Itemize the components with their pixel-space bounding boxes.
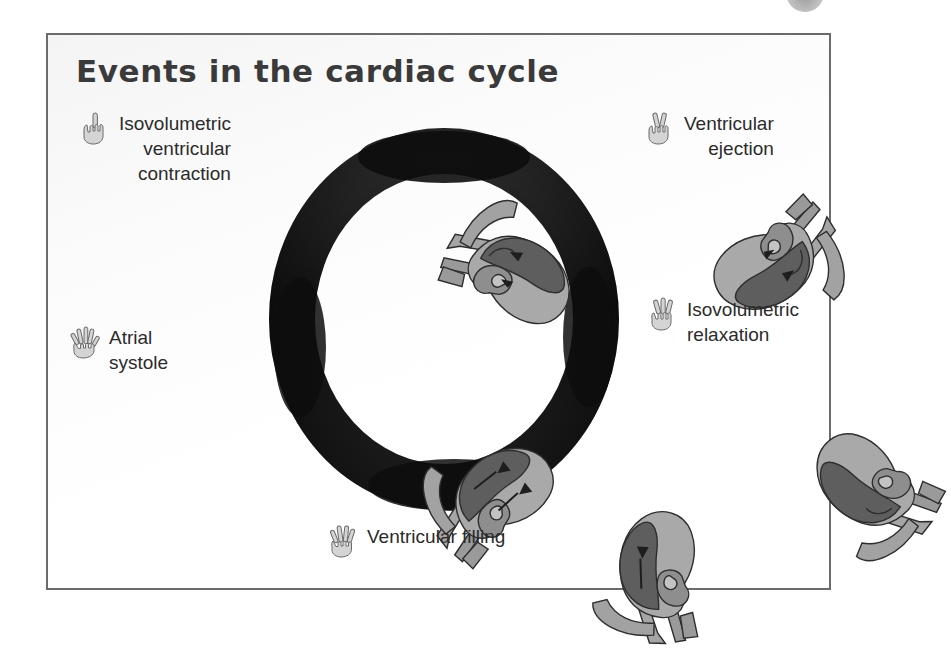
stage-label-isovolumetric-relaxation: Isovolumetric relaxation: [648, 297, 799, 347]
stage-label-ventricular-ejection: Ventricular ejection: [645, 111, 774, 161]
stage-label-isovolumetric-ventricular-contraction: Isovolumetric ventricular contraction: [80, 111, 231, 186]
stage-label-text: Isovolumetric ventricular contraction: [119, 111, 231, 186]
cardiac-cycle-figure-panel: Events in the cardiac cycle: [46, 33, 831, 590]
top-corner-badge: [786, 0, 824, 12]
hand-four-fingers-icon: [328, 524, 358, 558]
stage-label-ventricular-filling: Ventricular filling: [328, 524, 505, 558]
stage-label-text: Isovolumetric relaxation: [687, 297, 799, 347]
hand-two-fingers-icon: [645, 111, 675, 145]
stage-label-text: Atrial systole: [109, 325, 168, 375]
heart-diagram-ventricular-filling: [573, 492, 728, 647]
stage-label-atrial-systole: Atrial systole: [70, 325, 168, 375]
hand-one-finger-icon: [80, 111, 110, 145]
hand-five-fingers-icon: [70, 325, 100, 359]
stage-label-text: Ventricular filling: [367, 524, 505, 549]
cardiac-cycle-ring-group: [244, 97, 644, 537]
page-title: Events in the cardiac cycle: [76, 53, 559, 89]
heart-diagram-isovolumetric-relaxation: [759, 385, 951, 596]
stage-label-text: Ventricular ejection: [684, 111, 774, 161]
hand-three-fingers-icon: [648, 297, 678, 331]
